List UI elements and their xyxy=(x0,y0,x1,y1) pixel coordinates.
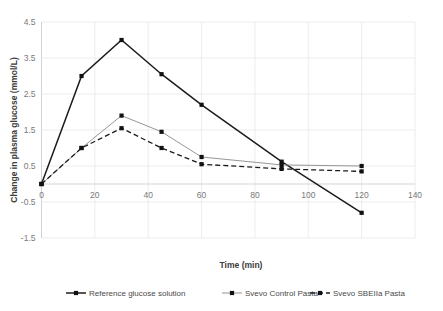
data-point-marker xyxy=(360,211,364,215)
data-point-marker xyxy=(199,155,203,159)
data-point-marker xyxy=(199,162,203,166)
y-tick-label: 0.5 xyxy=(24,161,36,171)
glucose-response-chart: 020406080100120140 -1.5-0.50.51.52.53.54… xyxy=(0,0,443,311)
data-point-marker xyxy=(119,38,123,42)
y-axis-title: Change in plasma glucose (mmol/L) xyxy=(9,57,19,203)
chart-canvas: 020406080100120140 -1.5-0.50.51.52.53.54… xyxy=(0,0,443,311)
y-tick-label: 1.5 xyxy=(24,125,36,135)
legend-label-2: Svevo SBEIIa Pasta xyxy=(333,289,406,298)
data-point-marker xyxy=(199,103,203,107)
legend-swatch-marker-0 xyxy=(74,291,78,295)
y-tick-label: 4.5 xyxy=(24,17,36,27)
data-point-marker xyxy=(119,126,123,130)
data-point-marker xyxy=(119,114,123,118)
data-point-marker xyxy=(360,169,364,173)
x-tick-label: 60 xyxy=(197,190,207,200)
x-tick-label: 140 xyxy=(408,190,422,200)
y-tick-label: -0.5 xyxy=(21,197,36,207)
y-axis-tick-labels: -1.5-0.50.51.52.53.54.5 xyxy=(21,17,36,243)
x-tick-label: 80 xyxy=(250,190,260,200)
data-point-marker xyxy=(280,163,284,167)
data-point-marker xyxy=(79,74,83,78)
x-tick-label: 0 xyxy=(39,190,44,200)
y-tick-label: -1.5 xyxy=(21,233,36,243)
data-point-marker xyxy=(159,130,163,134)
data-point-marker xyxy=(360,164,364,168)
legend-label-0: Reference glucose solution xyxy=(89,289,186,298)
x-tick-label: 120 xyxy=(355,190,369,200)
x-axis-title: Time (min) xyxy=(220,260,263,270)
x-axis-tick-labels: 020406080100120140 xyxy=(39,190,422,200)
y-tick-label: 3.5 xyxy=(24,53,36,63)
chart-legend: Reference glucose solutionSvevo Control … xyxy=(66,289,406,298)
legend-swatch-marker-2 xyxy=(318,291,322,295)
data-point-marker xyxy=(159,72,163,76)
data-point-marker xyxy=(159,146,163,150)
legend-swatch-marker-1 xyxy=(230,291,234,295)
x-tick-label: 20 xyxy=(90,190,100,200)
x-tick-label: 40 xyxy=(143,190,153,200)
data-point-marker xyxy=(280,167,284,171)
grid-layer xyxy=(42,22,416,238)
x-tick-label: 100 xyxy=(301,190,315,200)
legend-label-1: Svevo Control Pasta xyxy=(245,289,318,298)
data-point-marker xyxy=(79,146,83,150)
data-point-marker xyxy=(39,182,43,186)
y-tick-label: 2.5 xyxy=(24,89,36,99)
